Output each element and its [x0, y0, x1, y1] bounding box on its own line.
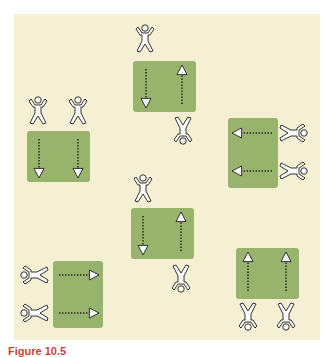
- figure-caption: Figure 10.5: [8, 345, 66, 357]
- field-zone: [131, 208, 194, 259]
- player-icon: [134, 175, 152, 202]
- player-icon: [174, 117, 192, 144]
- player-icon: [239, 303, 257, 330]
- field-zone: [53, 261, 103, 328]
- field-zone: [228, 118, 278, 188]
- player-icon: [136, 25, 154, 52]
- player-icon: [280, 124, 307, 142]
- field-zone: [133, 61, 196, 112]
- player-icon: [21, 304, 48, 322]
- field-zone: [236, 248, 299, 299]
- player-icon: [277, 303, 295, 330]
- player-icon: [69, 97, 87, 124]
- player-icon: [29, 97, 47, 124]
- player-icon: [172, 265, 190, 292]
- player-icon: [21, 266, 48, 284]
- player-icon: [280, 162, 307, 180]
- field-zone: [27, 131, 90, 182]
